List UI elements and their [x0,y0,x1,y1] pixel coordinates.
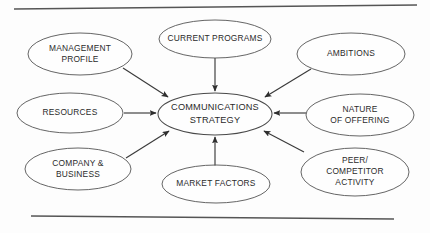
center-node-communications-strategy: COMMUNICATIONSSTRATEGY [158,93,272,135]
diagram-canvas: MANAGEMENTPROFILECURRENT PROGRAMSAMBITIO… [0,0,430,233]
node-label-line: STRATEGY [190,115,240,125]
factor-node-peer-competitor-activity: PEER/COMPETITORACTIVITY [301,148,409,196]
bottom-rule [31,216,394,219]
top-rule [14,5,417,9]
node-label-line: MANAGEMENT [49,43,111,53]
center-node: COMMUNICATIONSSTRATEGY [158,93,272,135]
node-label-line: CURRENT PROGRAMS [167,33,262,43]
node-label-line: OF OFFERING [330,115,389,125]
factor-node-company-and-business: COMPANY &BUSINESS [25,148,131,190]
node-label-line: COMPANY & [52,158,103,168]
node-label-line: PROFILE [61,54,98,64]
node-label-line: BUSINESS [56,169,100,179]
node-label-line: COMPETITOR [326,166,384,176]
arrow-company-and-business-to-center [126,131,169,158]
node-label-line: NATURE [342,104,377,114]
factor-node-management-profile: MANAGEMENTPROFILE [28,33,132,75]
node-label-line: PEER/ [342,155,369,165]
factor-node-market-factors: MARKET FACTORS [162,165,270,203]
factor-node-current-programs: CURRENT PROGRAMS [159,20,271,58]
arrow-ambitions-to-center [265,69,311,97]
node-label-line: ACTIVITY [335,177,375,187]
communications-strategy-diagram: MANAGEMENTPROFILECURRENT PROGRAMSAMBITIO… [0,0,430,233]
node-label-line: RESOURCES [43,107,98,117]
node-label-line: AMBITIONS [327,48,375,58]
arrow-management-profile-to-center [123,68,168,97]
factor-node-nature-of-offering: NATUREOF OFFERING [306,94,414,136]
node-label-line: MARKET FACTORS [176,178,255,188]
node-label-line: COMMUNICATIONS [171,102,259,112]
factor-node-ambitions: AMBITIONS [297,33,405,75]
arrow-peer-competitor-to-center [264,131,304,152]
factor-node-resources: RESOURCES [17,93,123,133]
